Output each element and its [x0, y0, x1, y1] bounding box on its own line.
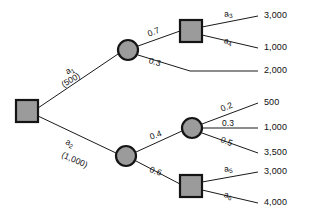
node-decision-upper[interactable] — [180, 20, 202, 42]
prob-label-c3-mid: 0.3 — [222, 119, 234, 128]
branch-label-a4: a4 — [223, 36, 233, 46]
node-chance-lower[interactable] — [116, 146, 136, 166]
node-chance-right[interactable] — [182, 118, 202, 138]
payoff-7: 3,000 — [264, 167, 287, 176]
node-decision-lower[interactable] — [180, 175, 202, 197]
decision-tree-diagram: a1 (500) a2 (1,000) 0.7 0.3 a3 a4 0.4 0.… — [0, 0, 312, 220]
payoff-1: 3,000 — [264, 11, 287, 20]
node-root-decision[interactable] — [16, 100, 38, 122]
branch-root-a2 — [38, 116, 116, 153]
payoff-8: 4,000 — [264, 198, 287, 207]
branch-label-a6: a6 — [223, 190, 233, 200]
node-chance-upper[interactable] — [118, 40, 138, 60]
payoff-2: 1,000 — [264, 43, 287, 52]
payoff-4: 500 — [264, 98, 279, 107]
branch-label-a5: a5 — [223, 164, 233, 174]
payoff-5: 1,000 — [264, 123, 287, 132]
branch-label-a3: a3 — [223, 9, 233, 19]
payoff-3: 2,000 — [264, 66, 287, 75]
payoff-6: 3,500 — [264, 148, 287, 157]
